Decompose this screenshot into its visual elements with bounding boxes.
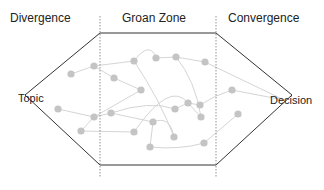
idea-edge bbox=[58, 109, 94, 117]
idea-node bbox=[77, 127, 84, 134]
idea-node bbox=[172, 53, 179, 60]
idea-node bbox=[137, 86, 144, 93]
idea-node bbox=[200, 139, 207, 146]
idea-node bbox=[130, 57, 137, 64]
idea-edge bbox=[204, 114, 238, 143]
zone-label-groan-zone: Groan Zone bbox=[122, 11, 186, 25]
idea-node bbox=[110, 74, 117, 81]
diamond-outline bbox=[25, 33, 292, 165]
idea-node bbox=[54, 105, 61, 112]
idea-edge bbox=[71, 66, 94, 74]
idea-node bbox=[90, 62, 97, 69]
idea-edge bbox=[114, 78, 141, 90]
idea-edge bbox=[134, 61, 174, 137]
idea-node bbox=[130, 128, 137, 135]
idea-edge bbox=[176, 57, 205, 62]
idea-edge bbox=[111, 113, 153, 122]
idea-edge bbox=[150, 122, 153, 147]
idea-edge bbox=[134, 96, 188, 132]
idea-edge bbox=[94, 90, 141, 117]
idea-node bbox=[146, 143, 153, 150]
idea-node bbox=[171, 105, 178, 112]
idea-node bbox=[234, 110, 241, 117]
zone-label-convergence: Convergence bbox=[228, 11, 299, 25]
idea-node bbox=[67, 70, 74, 77]
idea-node bbox=[90, 113, 97, 120]
idea-node bbox=[170, 133, 177, 140]
idea-node bbox=[228, 86, 235, 93]
topic-label: Topic bbox=[18, 92, 44, 104]
idea-node bbox=[197, 113, 204, 120]
idea-node bbox=[201, 58, 208, 65]
idea-node bbox=[196, 101, 203, 108]
idea-nodes bbox=[54, 53, 241, 150]
idea-node bbox=[152, 54, 159, 61]
idea-node bbox=[184, 99, 191, 106]
idea-edge bbox=[81, 131, 134, 132]
idea-node bbox=[149, 118, 156, 125]
idea-node bbox=[107, 109, 114, 116]
zone-label-divergence: Divergence bbox=[10, 11, 71, 25]
idea-edge bbox=[150, 143, 204, 148]
idea-edge bbox=[111, 105, 175, 113]
idea-edge bbox=[176, 57, 201, 117]
decision-label: Decision bbox=[270, 94, 312, 106]
